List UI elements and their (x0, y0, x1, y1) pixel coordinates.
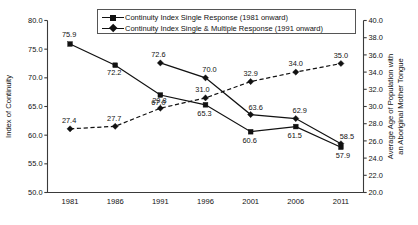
data-point-label: 72.2 (107, 68, 121, 77)
data-point-label: 58.5 (340, 132, 354, 141)
data-point (293, 124, 298, 129)
y2-axis-tick-label: 38.0 (369, 33, 383, 42)
legend-marker-diamond-icon (102, 24, 124, 33)
data-point-label: 31.0 (195, 85, 209, 94)
data-point (112, 123, 118, 129)
data-point (67, 126, 73, 132)
y-axis-tick-label: 50.0 (28, 188, 42, 197)
legend-item-1: Continuity Index Single & Multiple Respo… (102, 23, 351, 34)
y2-axis-tick-label: 26.0 (369, 137, 383, 146)
data-point-label: 63.6 (248, 103, 262, 112)
data-point (202, 95, 208, 101)
chart-container: 50.055.060.065.070.075.080.020.022.024.0… (0, 0, 418, 225)
data-point (157, 60, 163, 66)
y2-axis-tick-label: 22.0 (369, 171, 383, 180)
y2-axis-tick-label: 30.0 (369, 102, 383, 111)
y2-axis-tick-label: 32.0 (369, 85, 383, 94)
y-axis-tick-label: 55.0 (28, 159, 42, 168)
series-group (67, 42, 344, 150)
data-point-label: 60.6 (242, 136, 256, 145)
data-point (293, 69, 299, 75)
data-point-label: 27.7 (107, 114, 121, 123)
x-axis-tick-label: 1991 (152, 197, 169, 206)
x-axis-tick-label: 2011 (333, 197, 349, 206)
y-axis-tick-label: 70.0 (28, 73, 42, 82)
data-point-label: 62.9 (293, 106, 307, 115)
y-axis-title: Index of Continuity (4, 75, 13, 138)
y2-axis-tick-label: 40.0 (369, 16, 383, 25)
data-point (248, 129, 253, 134)
legend-label-0: Continuity Index Single Response (1981 o… (125, 12, 288, 23)
data-point (248, 78, 254, 84)
data-point-label: 34.0 (289, 59, 303, 68)
x-axis-tick-label: 1981 (62, 197, 79, 206)
legend-item-0: Continuity Index Single Response (1981 o… (102, 12, 351, 23)
data-point-label: 72.6 (151, 50, 165, 59)
data-labels-group: 75.972.267.065.360.661.557.972.670.063.6… (62, 30, 354, 161)
data-point (113, 63, 118, 68)
y2-axis-tick-label: 20.0 (369, 188, 383, 197)
x-axis-tick-label: 2006 (287, 197, 304, 206)
data-point-label: 61.5 (288, 131, 302, 140)
data-point (68, 42, 73, 47)
data-point-label: 27.4 (62, 116, 76, 125)
x-axis-tick-label: 1986 (107, 197, 124, 206)
data-point (203, 102, 208, 107)
y2-axis-tick-label: 34.0 (369, 68, 383, 77)
data-point-label: 70.0 (202, 65, 216, 74)
y2-axis-title-line2: an Aboriginal Mother Tongue (396, 58, 405, 155)
y-axis-tick-label: 60.0 (28, 131, 42, 140)
data-point-label: 65.3 (197, 109, 211, 118)
data-point-label: 32.9 (243, 69, 257, 78)
x-axis-tick-label: 2001 (242, 197, 259, 206)
y-axis-tick-label: 65.0 (28, 102, 42, 111)
legend-label-1: Continuity Index Single & Multiple Respo… (125, 23, 323, 34)
data-point (338, 60, 344, 66)
chart-legend: Continuity Index Single Response (1981 o… (97, 9, 356, 34)
x-axis-tick-label: 1996 (197, 197, 214, 206)
data-point-label: 75.9 (62, 30, 76, 39)
y-axis-tick-label: 80.0 (28, 16, 42, 25)
data-point-label: 57.9 (336, 151, 350, 160)
data-point (293, 115, 299, 121)
data-point-label: 29.8 (152, 96, 166, 105)
y-axis-tick-label: 75.0 (28, 45, 42, 54)
y2-axis-title-line1: Average Age of Population with (386, 54, 395, 159)
y2-axis-tick-label: 36.0 (369, 51, 383, 60)
y2-axis-tick-label: 24.0 (369, 154, 383, 163)
y2-axis-tick-label: 28.0 (369, 119, 383, 128)
data-point-label: 35.0 (334, 51, 348, 60)
legend-marker-square-icon (102, 13, 124, 22)
